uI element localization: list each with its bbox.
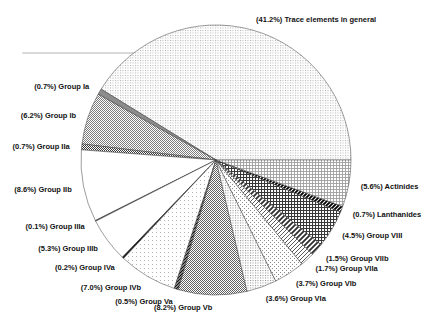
slice-label-lanthanides: (0.7%) Lanthanides: [353, 210, 421, 219]
chart-figure: (41.2%) Trace elements in general(0.7%) …: [0, 0, 433, 323]
slice-label-group-vib: (3.7%) Group VIb: [296, 279, 357, 288]
slice-label-group-iva: (0.2%) Group IVa: [55, 263, 115, 272]
slice-label-actinides: (5.6%) Actinides: [361, 182, 419, 191]
slice-label-group-ivb: (7.0%) Group IVb: [81, 283, 142, 292]
slice-label-group-iiib: (5.3%) Group IIIb: [38, 244, 98, 253]
slice-label-group-vb: (8.2%) Group Vb: [154, 303, 213, 312]
slice-label-group-viib: (1.5%) Group VIIb: [326, 254, 389, 263]
pie-slices-group: [81, 25, 351, 295]
slice-label-group-viia: (1.7%) Group VIIa: [316, 264, 379, 273]
slice-label-group-via: (3.6%) Group VIa: [266, 294, 327, 303]
slice-label-group-ib: (6.2%) Group Ib: [21, 111, 77, 120]
slice-label-group-ia: (0.7%) Group Ia: [34, 82, 90, 91]
slice-label-group-iib: (8.6%) Group IIb: [14, 185, 72, 194]
slice-label-group-viii: (4.5%) Group VIII: [342, 231, 402, 240]
pie-chart: (41.2%) Trace elements in general(0.7%) …: [0, 0, 433, 323]
slice-label-group-iiia: (0.1%) Group IIIa: [26, 222, 86, 231]
slice-label-trace-elements-in-general: (41.2%) Trace elements in general: [256, 15, 376, 24]
slice-label-group-iia: (0.7%) Group IIa: [13, 142, 71, 151]
